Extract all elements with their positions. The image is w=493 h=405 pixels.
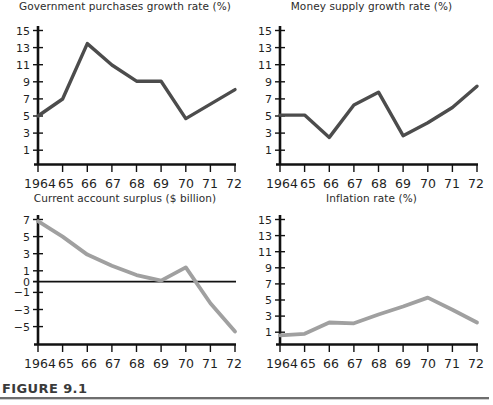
chart-title-inflation-rate: Inflation rate (%) bbox=[250, 192, 493, 205]
chart-panel-inflation-rate: Inflation rate (%) 15 13 11 9 7 5 3 1 bbox=[250, 192, 493, 380]
svg-text:5: 5 bbox=[265, 294, 272, 307]
svg-text:3: 3 bbox=[23, 248, 30, 261]
svg-text:13: 13 bbox=[258, 42, 272, 55]
svg-text:66: 66 bbox=[323, 176, 339, 191]
svg-text:7: 7 bbox=[265, 93, 272, 106]
chart-panel-current-account-surplus: Current account surplus ($ billion) 7 5 … bbox=[0, 192, 250, 380]
data-series-line bbox=[38, 221, 235, 331]
svg-text:1964: 1964 bbox=[24, 356, 56, 371]
svg-text:69: 69 bbox=[153, 356, 169, 371]
svg-text:5: 5 bbox=[23, 231, 30, 244]
svg-text:13: 13 bbox=[16, 42, 30, 55]
svg-text:3: 3 bbox=[265, 310, 272, 323]
x-axis-tick-labels: 1964 65 66 67 68 69 70 71 72 bbox=[266, 356, 484, 371]
svg-text:11: 11 bbox=[258, 59, 272, 72]
svg-text:71: 71 bbox=[202, 176, 218, 191]
svg-text:67: 67 bbox=[105, 176, 121, 191]
svg-text:9: 9 bbox=[265, 76, 272, 89]
svg-text:69: 69 bbox=[395, 356, 411, 371]
svg-text:1964: 1964 bbox=[24, 176, 56, 191]
figure-caption: FIGURE 9.1 bbox=[2, 381, 87, 396]
svg-text:15: 15 bbox=[258, 214, 272, 227]
line-chart-money-supply: 15 13 11 9 7 5 3 1 bbox=[250, 14, 493, 192]
svg-text:3: 3 bbox=[23, 127, 30, 140]
svg-text:72: 72 bbox=[226, 176, 242, 191]
data-series-line bbox=[280, 298, 477, 336]
svg-text:−5: −5 bbox=[14, 321, 30, 334]
svg-text:65: 65 bbox=[300, 176, 316, 191]
data-series-line bbox=[280, 86, 477, 137]
x-axis-tick-labels: 1964 65 66 67 68 69 70 71 72 bbox=[266, 176, 484, 191]
chart-panel-government-purchases: Government purchases growth rate (%) 15 … bbox=[0, 0, 250, 192]
data-series-line bbox=[38, 44, 235, 119]
y-axis-tick-labels: 15 13 11 9 7 5 3 1 bbox=[258, 25, 272, 158]
plot-area-money-supply: 15 13 11 9 7 5 3 1 bbox=[250, 14, 493, 192]
svg-text:5: 5 bbox=[265, 110, 272, 123]
svg-text:70: 70 bbox=[178, 176, 194, 191]
svg-text:68: 68 bbox=[129, 176, 145, 191]
svg-text:7: 7 bbox=[23, 93, 30, 106]
y-axis-tick-labels: 15 13 11 9 7 5 3 1 bbox=[16, 25, 30, 158]
svg-text:67: 67 bbox=[347, 356, 363, 371]
svg-text:7: 7 bbox=[265, 278, 272, 291]
svg-text:68: 68 bbox=[371, 356, 387, 371]
svg-text:3: 3 bbox=[265, 127, 272, 140]
plot-area-inflation-rate: 15 13 11 9 7 5 3 1 bbox=[250, 206, 493, 380]
svg-text:71: 71 bbox=[444, 356, 460, 371]
svg-text:71: 71 bbox=[202, 356, 218, 371]
line-chart-current-account-surplus: 7 5 3 1 0 −1 −3 −5 bbox=[0, 206, 250, 380]
svg-text:67: 67 bbox=[347, 176, 363, 191]
chart-title-government-purchases: Government purchases growth rate (%) bbox=[0, 0, 250, 13]
svg-text:1964: 1964 bbox=[266, 176, 298, 191]
svg-text:66: 66 bbox=[81, 176, 97, 191]
svg-text:68: 68 bbox=[129, 356, 145, 371]
svg-text:66: 66 bbox=[81, 356, 97, 371]
svg-text:65: 65 bbox=[58, 356, 74, 371]
svg-text:15: 15 bbox=[258, 25, 272, 38]
x-axis-tick-labels: 1964 65 66 67 68 69 70 71 72 bbox=[24, 356, 242, 371]
svg-text:−1: −1 bbox=[14, 286, 30, 299]
svg-text:1: 1 bbox=[265, 144, 272, 157]
y-axis-tick-labels: 15 13 11 9 7 5 3 1 bbox=[258, 214, 272, 340]
svg-text:9: 9 bbox=[265, 262, 272, 275]
svg-text:67: 67 bbox=[105, 356, 121, 371]
svg-text:70: 70 bbox=[420, 356, 436, 371]
svg-text:15: 15 bbox=[16, 25, 30, 38]
svg-text:5: 5 bbox=[23, 110, 30, 123]
svg-text:72: 72 bbox=[468, 356, 484, 371]
svg-text:7: 7 bbox=[23, 214, 30, 227]
svg-text:−3: −3 bbox=[14, 304, 30, 317]
svg-text:69: 69 bbox=[395, 176, 411, 191]
line-chart-inflation-rate: 15 13 11 9 7 5 3 1 bbox=[250, 206, 493, 380]
svg-text:65: 65 bbox=[58, 176, 74, 191]
figure-caption-rule bbox=[0, 397, 489, 400]
svg-text:11: 11 bbox=[16, 59, 30, 72]
line-chart-government-purchases: 15 13 11 9 7 5 3 1 bbox=[0, 14, 250, 192]
svg-text:11: 11 bbox=[258, 246, 272, 259]
svg-text:69: 69 bbox=[153, 176, 169, 191]
x-axis-tick-labels: 1964 65 66 67 68 69 70 71 72 bbox=[24, 176, 242, 191]
figure-9-1: Government purchases growth rate (%) 15 … bbox=[0, 0, 493, 405]
svg-text:9: 9 bbox=[23, 76, 30, 89]
svg-text:72: 72 bbox=[226, 356, 242, 371]
svg-text:1: 1 bbox=[23, 144, 30, 157]
y-axis-tick-labels: 7 5 3 1 0 −1 −3 −5 bbox=[14, 214, 30, 334]
svg-text:68: 68 bbox=[371, 176, 387, 191]
svg-text:71: 71 bbox=[444, 176, 460, 191]
plot-area-current-account-surplus: 7 5 3 1 0 −1 −3 −5 bbox=[0, 206, 250, 380]
svg-text:13: 13 bbox=[258, 230, 272, 243]
svg-text:1: 1 bbox=[265, 326, 272, 339]
chart-title-money-supply: Money supply growth rate (%) bbox=[250, 0, 493, 13]
chart-title-current-account-surplus: Current account surplus ($ billion) bbox=[0, 192, 250, 205]
chart-panel-money-supply: Money supply growth rate (%) 15 13 11 9 … bbox=[250, 0, 493, 192]
svg-text:66: 66 bbox=[323, 356, 339, 371]
svg-text:1964: 1964 bbox=[266, 356, 298, 371]
plot-area-government-purchases: 15 13 11 9 7 5 3 1 bbox=[0, 14, 250, 192]
svg-text:72: 72 bbox=[468, 176, 484, 191]
svg-text:70: 70 bbox=[420, 176, 436, 191]
svg-text:70: 70 bbox=[178, 356, 194, 371]
svg-text:65: 65 bbox=[300, 356, 316, 371]
